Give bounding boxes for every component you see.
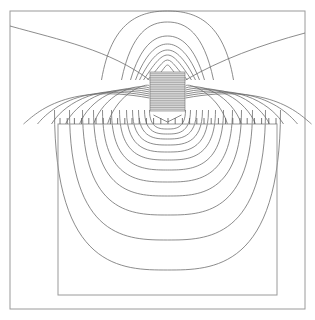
contour-line [186, 33, 306, 80]
contour-line-bottom [120, 110, 216, 160]
contour-line-bottom [150, 110, 186, 129]
contour-line-bottom [70, 110, 266, 240]
contour-line-bottom [112, 110, 224, 170]
contour-line-bottom [94, 110, 242, 196]
contour-line [10, 26, 150, 80]
contour-plot [0, 0, 315, 320]
contour-line-side [24, 94, 150, 124]
contour-line-top [122, 22, 214, 80]
contour-line-bottom [103, 110, 233, 182]
contour-line-top [102, 11, 234, 80]
flux-contour-diagram [0, 0, 315, 320]
contour-line [154, 115, 182, 122]
contour-line-bottom [133, 110, 203, 145]
contour-line-bottom [83, 110, 253, 215]
